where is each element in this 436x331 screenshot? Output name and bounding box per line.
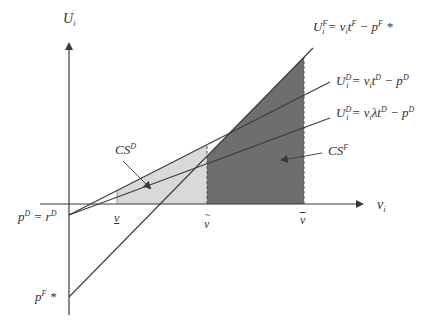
diagram-canvas	[0, 0, 436, 331]
y-axis-label: Ui	[63, 12, 75, 28]
pd-intercept-label: pD = rD	[18, 210, 56, 223]
ud-equation: UDi = vitD − pD	[336, 74, 409, 90]
cs-d-label: CSD	[115, 143, 136, 156]
v-bar-marker: v	[300, 214, 305, 226]
pf-intercept-label: pF *	[35, 290, 56, 303]
v-lower-marker: v	[114, 212, 119, 224]
ud-lambda-equation: UDi = viλtD − pD	[336, 106, 414, 122]
cs-f-label: CSF	[328, 144, 348, 157]
uf-equation: UFi = vitF − pF *	[313, 20, 393, 36]
cs-f-region	[207, 57, 304, 204]
x-axis-label: vi	[377, 198, 385, 214]
v-tilde-marker: v	[204, 218, 209, 230]
